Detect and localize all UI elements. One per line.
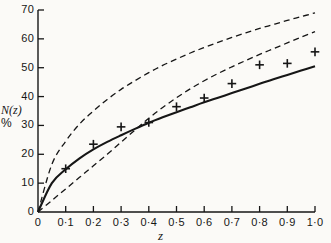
y-tick-label: 30 [8, 118, 34, 130]
y-tick-label: 10 [8, 176, 34, 188]
data-point-marker [311, 48, 320, 57]
x-tick-label: 1·0 [298, 216, 331, 228]
y-axis-title-nz: N(z) [1, 104, 35, 116]
y-tick-label: 40 [8, 90, 34, 102]
chart-figure: N(z) % z 010203040506070 00·10·20·30·40·… [0, 0, 331, 243]
x-axis-title: z [158, 228, 163, 243]
plot-area [0, 0, 331, 243]
data-point-marker [145, 118, 154, 127]
curve-solid-curve [38, 66, 315, 212]
curves [38, 13, 315, 212]
axes [38, 10, 315, 212]
curve-lower-dashed-curve [38, 32, 315, 212]
data-point-markers [61, 48, 319, 173]
y-tick-label: 20 [8, 147, 34, 159]
data-point-marker [228, 79, 237, 88]
data-point-marker [255, 61, 264, 70]
data-point-marker [172, 102, 181, 111]
data-point-marker [283, 59, 292, 68]
data-point-marker [117, 123, 126, 132]
y-tick-label: 50 [8, 61, 34, 73]
y-tick-label: 70 [8, 3, 34, 15]
y-tick-label: 60 [8, 32, 34, 44]
